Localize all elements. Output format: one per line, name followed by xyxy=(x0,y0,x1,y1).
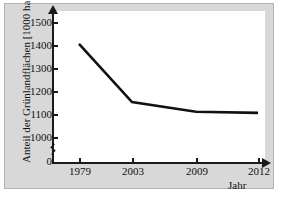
x-tick-1979 xyxy=(79,158,81,162)
y-axis-arrow-icon xyxy=(48,5,58,14)
y-tick-1100 xyxy=(54,114,58,116)
y-tick-label-0: 0 xyxy=(47,156,53,167)
plot-area xyxy=(52,11,265,163)
y-tick-label-1500: 1500 xyxy=(30,17,52,28)
x-axis-line xyxy=(52,162,264,164)
x-tick-label-2012: 2012 xyxy=(237,166,281,177)
y-tick-label-1200: 1200 xyxy=(30,86,52,97)
y-axis-line xyxy=(52,13,54,164)
x-tick-label-1979: 1979 xyxy=(58,166,102,177)
x-tick-2009 xyxy=(196,158,198,162)
y-tick-label-1400: 1400 xyxy=(30,40,52,51)
x-tick-2003 xyxy=(132,158,134,162)
y-tick-1500 xyxy=(54,22,58,24)
chart-figure: 1500 1400 1300 1200 1100 1000 0 1979 200… xyxy=(0,0,284,205)
y-axis-title: Anteil der Grünlandflächen [1000 ha] xyxy=(20,3,32,163)
x-tick-label-2009: 2009 xyxy=(175,166,219,177)
x-axis-title: Jahr xyxy=(228,179,246,191)
y-tick-label-1100: 1100 xyxy=(30,109,52,120)
x-tick-2012 xyxy=(258,158,260,162)
y-tick-1000 xyxy=(54,137,58,139)
y-tick-1200 xyxy=(54,91,58,93)
x-tick-label-2003: 2003 xyxy=(111,166,155,177)
y-tick-1400 xyxy=(54,45,58,47)
y-tick-label-1000: 1000 xyxy=(30,132,52,143)
y-tick-label-1300: 1300 xyxy=(30,63,52,74)
y-tick-1300 xyxy=(54,68,58,70)
